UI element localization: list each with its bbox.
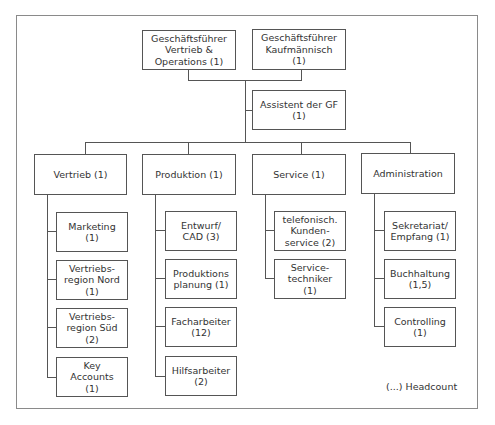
connector — [301, 142, 302, 154]
connector — [47, 231, 56, 232]
unit-entwurf-cad: Entwurf/ CAD (3) — [165, 211, 237, 251]
connector — [265, 195, 266, 279]
unit-key-accounts: Key Accounts (1) — [56, 357, 128, 397]
connector — [47, 377, 56, 378]
dept-produktion: Produktion (1) — [142, 154, 236, 195]
headcount-legend: (...) Headcount — [386, 381, 457, 392]
connector — [265, 230, 274, 231]
unit-hilfsarbeiter: Hilfsarbeiter (2) — [165, 356, 237, 396]
node-gf-vertrieb-operations: Geschäftsführer Vertrieb & Operations (1… — [142, 30, 236, 70]
connector — [155, 195, 156, 377]
unit-produktionsplanung: Produktions planung (1) — [165, 259, 237, 299]
unit-vertriebsregion-sued: Vertriebs- region Süd (2) — [56, 308, 128, 348]
node-assistent-gf: Assistent der GF (1) — [252, 90, 346, 130]
connector — [85, 142, 86, 154]
unit-servicetechniker: Service- techniker (1) — [274, 259, 346, 299]
unit-telefonischer-kundenservice: telefonisch. Kunden- service (2) — [274, 211, 346, 251]
dept-service: Service (1) — [252, 154, 346, 195]
connector-bus — [85, 142, 411, 143]
connector — [374, 194, 375, 327]
connector — [245, 110, 252, 111]
unit-facharbeiter: Facharbeiter (12) — [165, 307, 237, 347]
connector — [155, 376, 165, 377]
connector — [47, 327, 56, 328]
node-gf-kaufmaennisch: Geschäftsführer Kaufmännisch (1) — [252, 29, 346, 70]
connector — [374, 326, 384, 327]
dept-vertrieb: Vertrieb (1) — [34, 154, 127, 195]
unit-vertriebsregion-nord: Vertriebs- region Nord (1) — [56, 260, 128, 300]
unit-marketing: Marketing (1) — [56, 212, 128, 252]
connector — [155, 278, 165, 279]
unit-buchhaltung: Buchhaltung (1,5) — [384, 259, 456, 299]
connector — [188, 142, 189, 154]
connector — [265, 278, 274, 279]
dept-administration: Administration — [361, 153, 455, 194]
connector — [47, 279, 56, 280]
connector — [155, 230, 165, 231]
connector — [374, 230, 384, 231]
connector — [155, 326, 165, 327]
unit-sekretariat-empfang: Sekretariat/ Empfang (1) — [384, 211, 456, 251]
connector — [374, 278, 384, 279]
unit-controlling: Controlling (1) — [384, 307, 456, 347]
connector — [47, 195, 48, 378]
connector-trunk — [245, 80, 246, 143]
